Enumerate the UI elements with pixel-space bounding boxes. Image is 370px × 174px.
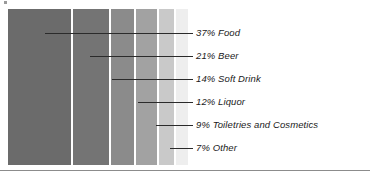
label-name-beer: Beer <box>218 50 238 61</box>
bar-segment-food[interactable] <box>8 9 71 165</box>
percentage-bar-chart: 37% Food 21% Beer 14% Soft Drink 12% Liq… <box>0 0 370 174</box>
label-percent-other: 7% <box>196 142 210 153</box>
label-name-soft-drink: Soft Drink <box>218 73 261 84</box>
bar-segment-liquor[interactable] <box>136 9 156 165</box>
label-percent-soft-drink: 14% <box>196 73 215 84</box>
label-toiletries-and-cosmetics: 9% Toiletries and Cosmetics <box>196 120 318 130</box>
bar-segment-soft-drink[interactable] <box>111 9 135 165</box>
label-percent-food: 37% <box>196 27 215 38</box>
label-soft-drink: 14% Soft Drink <box>196 74 261 84</box>
bar-series <box>8 9 188 165</box>
label-name-food: Food <box>218 27 240 38</box>
label-beer: 21% Beer <box>196 51 239 61</box>
bar-segment-beer[interactable] <box>73 9 109 165</box>
label-percent-liquor: 12% <box>196 96 215 107</box>
bar-segment-other[interactable] <box>176 9 188 165</box>
scan-artifact-speck <box>4 1 7 4</box>
bar-segment-toiletries-and-cosmetics[interactable] <box>159 9 174 165</box>
label-name-toiletries: Toiletries and Cosmetics <box>213 119 319 130</box>
chart-labels: 37% Food 21% Beer 14% Soft Drink 12% Liq… <box>196 0 370 174</box>
label-percent-toiletries: 9% <box>196 119 210 130</box>
label-liquor: 12% Liquor <box>196 97 245 107</box>
label-food: 37% Food <box>196 28 240 38</box>
label-percent-beer: 21% <box>196 50 215 61</box>
label-other: 7% Other <box>196 143 237 153</box>
label-name-other: Other <box>213 142 237 153</box>
bottom-divider <box>0 170 370 171</box>
label-name-liquor: Liquor <box>218 96 245 107</box>
